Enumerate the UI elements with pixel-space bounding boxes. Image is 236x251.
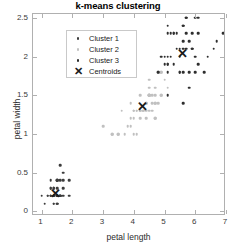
data-point: [151, 102, 154, 105]
data-point: [215, 40, 218, 43]
data-point: [154, 86, 157, 89]
x-tick: [226, 210, 227, 214]
data-point: [157, 102, 160, 105]
data-point: [166, 71, 169, 74]
data-point: [123, 133, 126, 136]
x-tick-label: 3: [100, 217, 104, 226]
x-tick: [42, 14, 43, 18]
y-tick: [220, 134, 224, 135]
y-tick-label: 1: [2, 128, 28, 137]
x-tick: [72, 14, 73, 18]
y-axis-title: petal width: [12, 64, 22, 174]
data-point: [151, 109, 154, 112]
data-point: [194, 71, 197, 74]
data-point: [166, 63, 169, 66]
y-tick-label: 0.5: [2, 167, 28, 176]
data-point: [120, 109, 123, 112]
data-point: [59, 179, 62, 182]
legend-label: Cluster 3: [89, 56, 119, 65]
data-point: [176, 32, 179, 35]
legend-marker-cluster-2-icon: [67, 48, 89, 51]
y-tick-label: 2.5: [2, 12, 28, 21]
legend-label: Cluster 2: [89, 45, 119, 54]
data-point: [172, 63, 175, 66]
data-point: [139, 117, 142, 120]
x-tick: [72, 210, 73, 214]
centroid-marker: ✕: [50, 186, 61, 199]
figure: k-means clustering petal width petal len…: [0, 0, 236, 251]
data-point: [145, 117, 148, 120]
data-point: [68, 179, 71, 182]
y-tick: [33, 95, 37, 96]
x-tick-label: 7: [223, 217, 227, 226]
data-point: [188, 71, 191, 74]
data-point: [179, 71, 182, 74]
data-point: [56, 202, 59, 205]
y-tick: [220, 95, 224, 96]
data-point: [160, 94, 163, 97]
data-point: [148, 78, 151, 81]
x-tick-label: 1: [38, 217, 42, 226]
x-tick: [103, 210, 104, 214]
legend-label: Centroids: [89, 67, 121, 76]
x-tick: [195, 14, 196, 18]
legend-marker-cluster-1-icon: [67, 37, 89, 40]
y-tick: [33, 211, 37, 212]
data-point: [185, 32, 188, 35]
x-tick-label: 4: [131, 217, 135, 226]
data-point: [163, 63, 166, 66]
data-point: [166, 24, 169, 27]
data-point: [169, 55, 172, 58]
data-point: [172, 32, 175, 35]
x-tick-label: 6: [192, 217, 196, 226]
data-point: [50, 179, 53, 182]
data-point: [40, 195, 43, 198]
x-tick-label: 5: [161, 217, 165, 226]
data-point: [136, 133, 139, 136]
data-point: [102, 125, 105, 128]
data-point: [129, 125, 132, 128]
centroid-marker: ✕: [177, 46, 188, 59]
y-tick: [33, 134, 37, 135]
y-tick-label: 1.5: [2, 90, 28, 99]
data-point: [111, 133, 114, 136]
data-point: [185, 17, 188, 20]
x-tick: [226, 14, 227, 18]
legend-marker-centroids-icon: ✕: [67, 66, 89, 77]
legend: Cluster 1 Cluster 2 Cluster 3 ✕ Centroid…: [66, 30, 137, 78]
data-point: [129, 102, 132, 105]
y-tick: [33, 173, 37, 174]
data-point: [197, 32, 200, 35]
x-tick: [165, 14, 166, 18]
chart-title: k-means clustering: [0, 0, 236, 11]
centroid-marker: ✕: [137, 100, 148, 113]
data-point: [166, 86, 169, 89]
data-point: [148, 94, 151, 97]
x-tick: [134, 210, 135, 214]
data-point: [163, 55, 166, 58]
data-point: [43, 202, 46, 205]
data-point: [191, 48, 194, 51]
x-tick: [134, 14, 135, 18]
x-tick: [195, 210, 196, 214]
data-point: [188, 86, 191, 89]
data-point: [206, 55, 209, 58]
data-point: [53, 202, 56, 205]
y-tick-label: 0: [2, 206, 28, 215]
data-point: [62, 187, 65, 190]
data-point: [157, 71, 160, 74]
data-point: [188, 40, 191, 43]
data-point: [182, 40, 185, 43]
data-point: [62, 171, 65, 174]
y-tick: [220, 211, 224, 212]
legend-item: Cluster 2: [67, 44, 136, 55]
data-point: [194, 55, 197, 58]
plot-area: ✕✕✕ Cluster 1 Cluster 2 Cluster 3 ✕ Cent…: [32, 13, 225, 215]
legend-marker-cluster-3-icon: [67, 59, 89, 62]
data-point: [212, 48, 215, 51]
data-point: [133, 117, 136, 120]
data-point: [160, 71, 163, 74]
x-tick: [42, 210, 43, 214]
data-point: [160, 55, 163, 58]
data-point: [203, 71, 206, 74]
